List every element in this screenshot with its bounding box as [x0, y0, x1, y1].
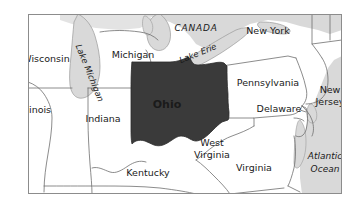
- label-new-york: New York: [246, 25, 290, 36]
- label-michigan: Michigan: [112, 49, 155, 60]
- label-canada: CANADA: [174, 23, 217, 33]
- label-kentucky: Kentucky: [126, 167, 170, 178]
- label-new-jersey-line1: New: [320, 84, 341, 95]
- label-pennsylvania: Pennsylvania: [237, 77, 299, 88]
- label-indiana: Indiana: [85, 113, 120, 124]
- ohio-state-label: Ohio: [153, 98, 182, 111]
- label-atlantic-line1: Atlantic: [307, 151, 342, 161]
- label-wisconsin: Wisconsin: [22, 53, 69, 64]
- map-canvas: Ohio Wisconsin Michigan New York Pennsyl…: [0, 0, 352, 208]
- label-new-jersey-line2: Jersey: [315, 96, 345, 107]
- map-body: Ohio Wisconsin Michigan New York Pennsyl…: [21, 14, 345, 194]
- label-virginia: Virginia: [236, 162, 272, 173]
- label-atlantic-line2: Ocean: [311, 164, 340, 174]
- location-map: Ohio Wisconsin Michigan New York Pennsyl…: [0, 0, 352, 208]
- label-west-virginia-line2: Virginia: [194, 149, 230, 160]
- label-delaware: Delaware: [257, 103, 302, 114]
- label-west-virginia-line1: West: [200, 137, 224, 148]
